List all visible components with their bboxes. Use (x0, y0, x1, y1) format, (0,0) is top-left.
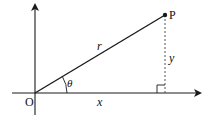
polar-diagram: O P r θ x y (0, 0, 212, 120)
point-label: P (169, 8, 176, 22)
origin-label: O (25, 95, 34, 109)
point-p-dot (163, 13, 167, 17)
angle-label: θ (67, 77, 73, 89)
radius-line (35, 15, 165, 93)
y-label: y (168, 51, 175, 65)
radius-label: r (97, 39, 102, 53)
x-label: x (96, 95, 103, 109)
right-angle-marker (157, 85, 165, 93)
